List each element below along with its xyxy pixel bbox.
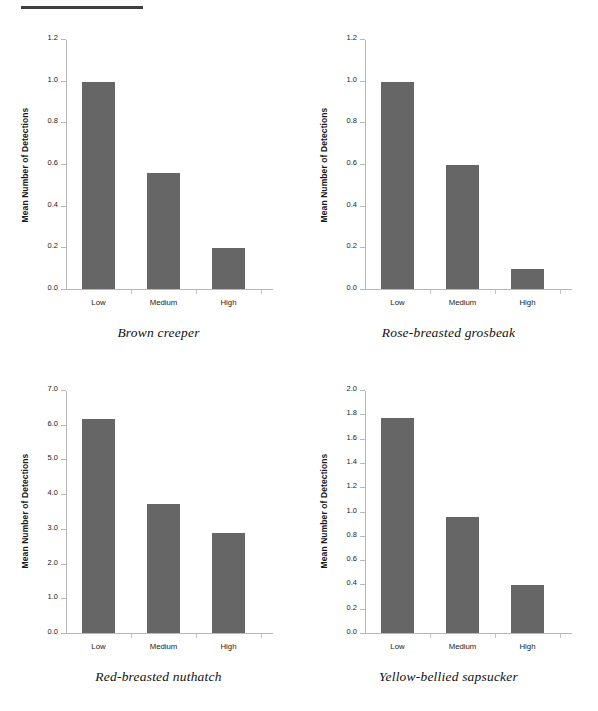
y-axis-tick-label: 0.0 [48, 283, 58, 292]
x-axis-category-label: Medium [449, 298, 477, 307]
y-axis-tick-label: 0.8 [347, 530, 357, 539]
x-axis-line [365, 289, 572, 290]
y-axis-tick: 1.2 [360, 487, 365, 488]
bar [82, 419, 115, 633]
y-axis-tick: 6.0 [61, 425, 66, 426]
x-axis-tick [261, 290, 262, 294]
x-axis-tick [261, 634, 262, 638]
y-axis-tick: 0.0 [61, 633, 66, 634]
y-axis-tick: 0.8 [360, 122, 365, 123]
x-axis-category-label: Medium [150, 298, 178, 307]
chart-caption: Rose-breasted grosbeak [299, 325, 598, 341]
x-axis-category-label: High [519, 298, 535, 307]
y-axis-tick: 0.2 [360, 609, 365, 610]
x-axis-category-label: Low [390, 298, 404, 307]
y-axis-tick-label: 0.2 [48, 241, 58, 250]
y-axis-tick-label: 0.6 [347, 158, 357, 167]
x-axis-tick [196, 634, 197, 638]
x-axis-category-label: Medium [150, 642, 178, 651]
x-axis-line [66, 633, 273, 634]
chart-panel: Mean Number of Detections0.01.02.03.04.0… [0, 356, 299, 711]
x-axis-category-label: High [220, 642, 236, 651]
y-axis-tick: 2.0 [360, 390, 365, 391]
bar [511, 585, 544, 633]
plot-area: 0.01.02.03.04.05.06.07.0LowMediumHigh [66, 391, 261, 634]
y-axis-tick-label: 0.0 [48, 627, 58, 636]
x-axis-tick [131, 634, 132, 638]
y-axis-tick: 0.2 [360, 247, 365, 248]
x-axis-line [365, 633, 572, 634]
y-axis-tick-label: 0.4 [48, 200, 58, 209]
y-axis-tick-label: 0.6 [347, 554, 357, 563]
y-axis-tick: 7.0 [61, 390, 66, 391]
y-axis-tick-label: 1.2 [347, 481, 357, 490]
chart-caption: Brown creeper [0, 325, 299, 341]
x-axis-category-label: Medium [449, 642, 477, 651]
y-axis-tick: 1.2 [360, 39, 365, 40]
y-axis-tick-label: 2.0 [347, 384, 357, 393]
bar [212, 248, 245, 289]
chart-panel: Mean Number of Detections0.00.20.40.60.8… [299, 0, 598, 355]
chart-caption: Yellow-bellied sapsucker [299, 669, 598, 685]
y-axis-tick-label: 1.0 [347, 506, 357, 515]
y-axis-tick-label: 1.0 [48, 75, 58, 84]
chart-panel: Mean Number of Detections0.00.20.40.60.8… [299, 356, 598, 711]
y-axis-tick: 1.0 [61, 598, 66, 599]
bar [212, 533, 245, 633]
y-axis-line [66, 391, 67, 634]
chart-caption: Red-breasted nuthatch [0, 669, 299, 685]
x-axis-category-label: High [519, 642, 535, 651]
y-axis-line [66, 40, 67, 290]
bar [446, 517, 479, 633]
x-axis-category-label: Low [91, 298, 105, 307]
y-axis-title: Mean Number of Detections [20, 40, 34, 290]
x-axis-line [66, 289, 273, 290]
x-axis-category-label: Low [91, 642, 105, 651]
y-axis-tick: 3.0 [61, 529, 66, 530]
y-axis-tick: 1.6 [360, 439, 365, 440]
y-axis-tick-label: 0.8 [48, 116, 58, 125]
plot-area: 0.00.20.40.60.81.01.2LowMediumHigh [365, 40, 560, 290]
y-axis-tick: 0.2 [61, 247, 66, 248]
y-axis-tick-label: 0.4 [347, 200, 357, 209]
x-axis-category-label: High [220, 298, 236, 307]
y-axis-tick: 0.4 [360, 206, 365, 207]
y-axis-tick: 0.6 [61, 164, 66, 165]
y-axis-tick: 0.4 [360, 584, 365, 585]
y-axis-tick: 1.0 [360, 81, 365, 82]
figure-grid: Mean Number of Detections0.00.20.40.60.8… [0, 0, 598, 711]
y-axis-tick-label: 0.2 [347, 241, 357, 250]
x-axis-tick [196, 290, 197, 294]
chart-panel: Mean Number of Detections0.00.20.40.60.8… [0, 0, 299, 355]
y-axis-tick: 4.0 [61, 494, 66, 495]
y-axis-tick: 0.0 [360, 633, 365, 634]
y-axis-title: Mean Number of Detections [319, 40, 333, 290]
x-axis-category-label: Low [390, 642, 404, 651]
y-axis-tick: 1.4 [360, 463, 365, 464]
y-axis-tick: 5.0 [61, 459, 66, 460]
y-axis-tick: 0.6 [360, 164, 365, 165]
plot-area: 0.00.20.40.60.81.01.2LowMediumHigh [66, 40, 261, 290]
y-axis-tick: 1.8 [360, 414, 365, 415]
y-axis-line [365, 40, 366, 290]
y-axis-tick-label: 1.6 [347, 433, 357, 442]
x-axis-tick [430, 634, 431, 638]
y-axis-tick: 1.0 [61, 81, 66, 82]
y-axis-tick-label: 1.0 [347, 75, 357, 84]
y-axis-tick-label: 0.6 [48, 158, 58, 167]
y-axis-tick-label: 0.8 [347, 116, 357, 125]
y-axis-tick: 1.0 [360, 512, 365, 513]
y-axis-tick: 2.0 [61, 564, 66, 565]
y-axis-tick-label: 1.2 [48, 33, 58, 42]
bar [381, 82, 414, 289]
y-axis-tick-label: 2.0 [48, 558, 58, 567]
x-axis-tick [131, 290, 132, 294]
y-axis-tick: 0.0 [61, 289, 66, 290]
y-axis-tick: 1.2 [61, 39, 66, 40]
y-axis-tick: 0.6 [360, 560, 365, 561]
y-axis-tick-label: 0.2 [347, 603, 357, 612]
y-axis-tick-label: 0.4 [347, 578, 357, 587]
bar [147, 504, 180, 633]
x-axis-tick [430, 290, 431, 294]
y-axis-tick-label: 1.0 [48, 592, 58, 601]
